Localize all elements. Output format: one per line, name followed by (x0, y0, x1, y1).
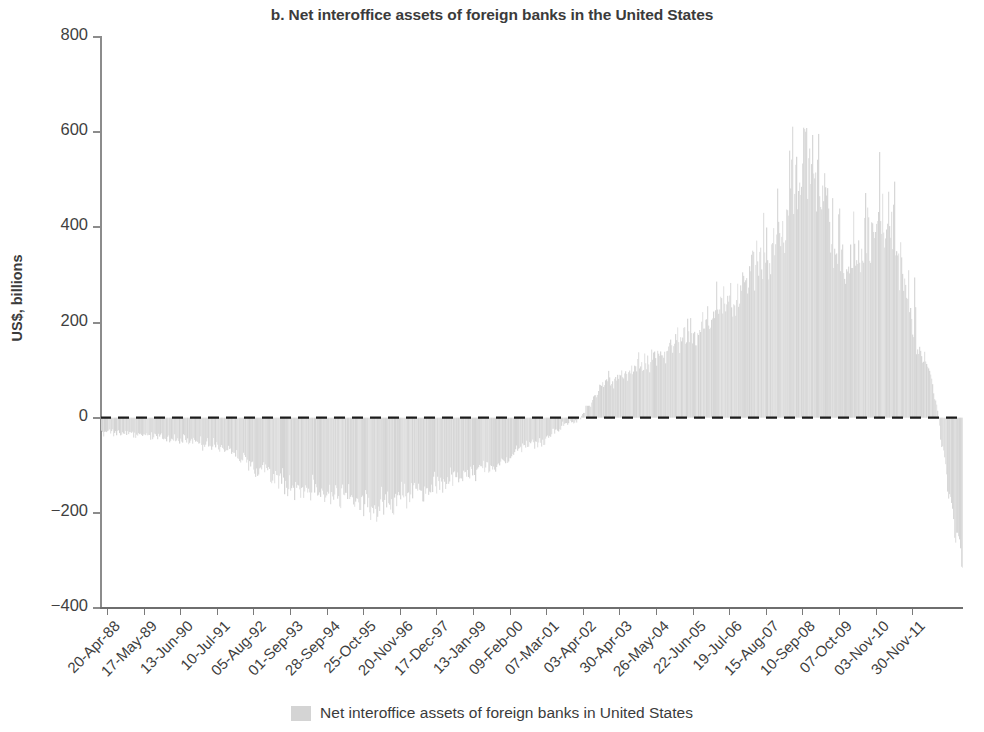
plot-area (101, 37, 963, 608)
x-axis-tick (327, 609, 328, 615)
x-axis-tick (107, 609, 108, 615)
x-axis-tick (510, 609, 511, 615)
x-axis-tick (912, 609, 913, 615)
x-axis-tick (583, 609, 584, 615)
x-axis-tick (180, 609, 181, 615)
x-axis-tick (656, 609, 657, 615)
x-axis-tick (290, 609, 291, 615)
x-axis-tick (144, 609, 145, 615)
y-axis-tick (93, 131, 100, 133)
x-axis-tick (766, 609, 767, 615)
y-axis-tick (93, 607, 100, 609)
x-axis-tick (619, 609, 620, 615)
y-axis-tick (93, 226, 100, 228)
y-axis-label: 800 (30, 25, 88, 44)
y-axis-label: 400 (30, 215, 88, 234)
y-axis-label: 600 (30, 120, 88, 139)
x-axis-tick (253, 609, 254, 615)
legend-label: Net interoffice assets of foreign banks … (320, 704, 693, 722)
chart-figure: b. Net interoffice assets of foreign ban… (0, 0, 984, 732)
y-axis-label: 200 (30, 311, 88, 330)
chart-title: b. Net interoffice assets of foreign ban… (0, 6, 984, 24)
x-axis-tick (839, 609, 840, 615)
series-area-canvas (101, 37, 963, 608)
y-axis-tick (93, 322, 100, 324)
y-axis-label: 0 (30, 406, 88, 425)
x-axis-tick (693, 609, 694, 615)
x-axis-tick (363, 609, 364, 615)
x-axis-tick (436, 609, 437, 615)
x-axis-tick (802, 609, 803, 615)
y-axis-label: −400 (30, 596, 88, 615)
x-axis-tick (400, 609, 401, 615)
y-axis-tick (93, 417, 100, 419)
y-axis-tick (93, 36, 100, 38)
chart-legend: Net interoffice assets of foreign banks … (0, 704, 984, 722)
x-axis-tick (729, 609, 730, 615)
legend-swatch-icon (291, 706, 311, 721)
x-axis-tick (217, 609, 218, 615)
y-axis-label: −200 (30, 501, 88, 520)
y-axis-tick (93, 512, 100, 514)
y-axis-title: US$, billions (9, 203, 25, 393)
x-axis-tick (876, 609, 877, 615)
x-axis-tick (546, 609, 547, 615)
x-axis-tick (473, 609, 474, 615)
